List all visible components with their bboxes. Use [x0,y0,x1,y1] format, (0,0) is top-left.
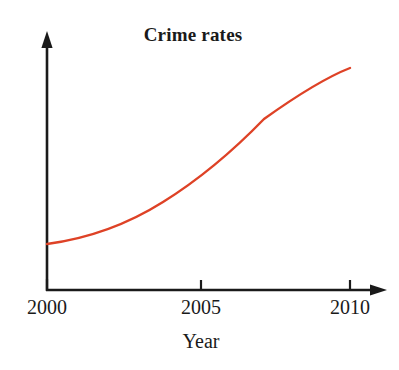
x-axis-label: Year [151,330,251,352]
x-tick-label-2000: 2000 [7,296,87,318]
x-tick-label-2010: 2010 [310,296,390,318]
y-axis-arrowhead [41,31,52,48]
crime-rate-curve [47,68,350,244]
x-tick-label-2005: 2005 [161,296,241,318]
chart-title: Crime rates [113,24,273,46]
x-axis-arrowhead [370,285,387,296]
chart-canvas: Crime rates 2000 2005 2010 Year [0,0,399,370]
